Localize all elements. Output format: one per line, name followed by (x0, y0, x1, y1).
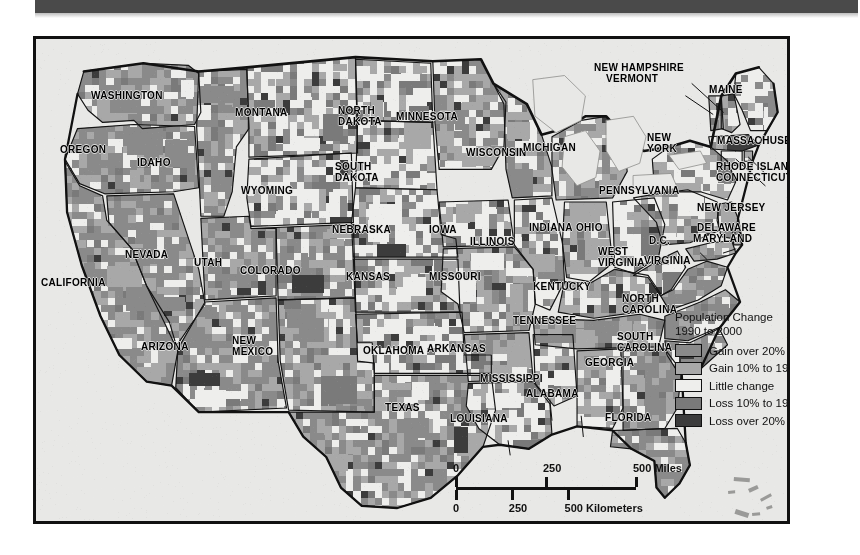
legend-swatch-icon (675, 362, 702, 375)
choropleth-map-canvas (36, 39, 787, 521)
scale-label-kilometers: 0 (453, 502, 459, 514)
scale-bar-rule (456, 487, 636, 490)
scale-label-kilometers: 500 Kilometers (565, 502, 643, 514)
legend-title: Population Change 1990 to 2000 (675, 311, 790, 338)
scale-label-miles: 0 (453, 462, 459, 474)
scale-bar: 0250500 Miles0250500 Kilometers (440, 463, 660, 521)
legend-item-label: Gain 10% to 19% (709, 362, 790, 374)
map-legend: Population Change 1990 to 2000 Gain over… (675, 311, 790, 432)
scale-tick-miles (635, 477, 638, 487)
legend-item: Gain over 20% (675, 344, 790, 357)
scale-label-kilometers: 250 (509, 502, 527, 514)
legend-item-label: Loss over 20% (709, 415, 785, 427)
scale-label-miles: 500 Miles (633, 462, 682, 474)
scale-tick-kilometers (511, 490, 514, 500)
legend-item: Loss over 20% (675, 414, 790, 427)
scan-top-band-shadow (35, 13, 858, 18)
legend-item: Little change (675, 379, 790, 392)
legend-rows: Gain over 20%Gain 10% to 19%Little chang… (675, 344, 790, 427)
scale-tick-miles (545, 477, 548, 487)
legend-swatch-icon (675, 414, 702, 427)
page-root: WASHINGTONOREGONIDAHOMONTANAWYOMINGNEVAD… (0, 0, 860, 555)
scale-label-miles: 250 (543, 462, 561, 474)
scale-tick-kilometers (567, 490, 570, 500)
legend-item-label: Loss 10% to 19% (709, 397, 790, 409)
map-frame: WASHINGTONOREGONIDAHOMONTANAWYOMINGNEVAD… (33, 36, 790, 524)
legend-swatch-icon (675, 344, 702, 357)
legend-swatch-icon (675, 379, 702, 392)
scan-top-band (35, 0, 858, 13)
legend-item: Gain 10% to 19% (675, 362, 790, 375)
legend-swatch-icon (675, 397, 702, 410)
legend-item-label: Little change (709, 380, 774, 392)
scale-tick-miles (455, 477, 458, 487)
scale-tick-kilometers (455, 490, 458, 500)
legend-item-label: Gain over 20% (709, 345, 785, 357)
legend-item: Loss 10% to 19% (675, 397, 790, 410)
